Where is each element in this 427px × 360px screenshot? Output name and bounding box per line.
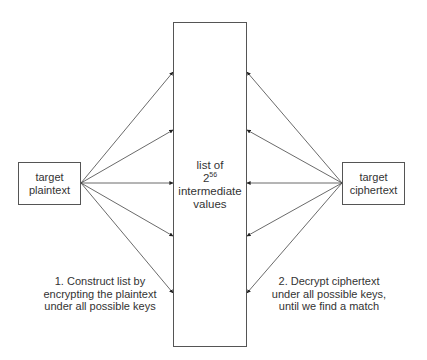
decrypt-arrows: [247, 72, 342, 293]
target-ciphertext-box: target ciphertext: [342, 162, 405, 205]
target-plaintext-box: target plaintext: [18, 162, 81, 205]
step-2-note: 2. Decrypt ciphertext under all possible…: [267, 275, 391, 313]
power-exponent: 56: [209, 171, 217, 178]
decrypt-arrow: [247, 130, 342, 183]
left-box-line-2: plaintext: [29, 184, 70, 197]
step-1-line-1: 1. Construct list by: [40, 275, 160, 288]
encrypt-arrow: [81, 72, 173, 183]
intermediate-values-label: list of 256 intermediate values: [178, 159, 241, 211]
right-box-line-2: ciphertext: [350, 184, 398, 197]
step-2-line-1: 2. Decrypt ciphertext: [267, 275, 391, 288]
decrypt-arrow: [247, 72, 342, 183]
center-line-2: 256: [178, 172, 241, 185]
step-2-line-3: until we find a match: [267, 300, 391, 313]
step-1-line-3: under all possible keys: [40, 300, 160, 313]
encrypt-arrow: [81, 130, 173, 183]
decrypt-arrow: [247, 183, 342, 236]
step-1-line-2: encrypting the plaintext: [40, 288, 160, 301]
encrypt-arrows: [81, 72, 173, 293]
center-line-4: values: [178, 198, 241, 211]
intermediate-values-box: list of 256 intermediate values: [173, 22, 247, 347]
encrypt-arrow: [81, 183, 173, 236]
center-line-3: intermediate: [178, 185, 241, 198]
left-box-line-1: target: [29, 171, 70, 184]
target-ciphertext-label: target ciphertext: [350, 171, 398, 197]
step-1-note: 1. Construct list by encrypting the plai…: [40, 275, 160, 313]
step-2-line-2: under all possible keys,: [267, 288, 391, 301]
right-box-line-1: target: [350, 171, 398, 184]
target-plaintext-label: target plaintext: [29, 171, 70, 197]
